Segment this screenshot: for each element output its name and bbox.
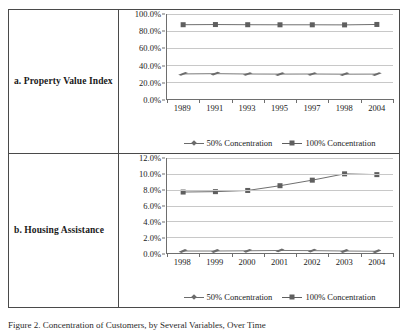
y-tick-mark [162,158,165,159]
data-point-marker [278,183,283,188]
x-axis-labels-b: 1998199920002001200220032004 [166,256,393,272]
y-tick-mark [162,206,165,207]
data-point-marker [278,22,283,27]
x-tick-label: 1993 [239,104,256,113]
gridline [167,221,393,222]
y-tick-label: 0.0% [143,96,161,105]
plot-area-b [166,158,393,254]
x-tick-label: 1997 [303,104,320,113]
x-tick-label: 1995 [271,104,288,113]
plot-wrap-b: 0.0%2.0%4.0%6.0%8.0%10.0%12.0% 199819992… [121,158,395,272]
y-tick-mark [162,14,165,15]
legend-label: 100% Concentration [305,292,375,302]
legend-label: 50% Concentration [207,292,273,302]
y-tick-label: 100.0% [135,10,161,19]
legend-a: 50% Concentration100% Concentration [166,135,393,150]
legend-item: 100% Concentration [282,292,375,302]
legend-b: 50% Concentration100% Concentration [166,289,393,304]
legend-item: 50% Concentration [184,138,273,148]
chart-housing-assistance: 0.0%2.0%4.0%6.0%8.0%10.0%12.0% 199819992… [121,158,395,305]
legend-item: 50% Concentration [184,292,273,302]
y-tick-mark [162,31,165,32]
y-tick-mark [162,48,165,49]
plot-wrap-a: 0.0%20.0%40.0%60.0%80.0%100.0% 198919911… [121,14,395,118]
y-tick-mark [162,174,165,175]
y-tick-label: 12.0% [139,154,161,163]
y-tick-label: 2.0% [143,234,161,243]
legend-diamond-icon [184,292,204,301]
gridline [167,48,393,49]
y-tick-mark [162,222,165,223]
gridline [167,14,393,15]
x-tick-label: 2003 [336,258,353,267]
legend-item: 100% Concentration [282,138,375,148]
legend-label: 100% Concentration [305,138,375,148]
x-tick-label: 2002 [303,258,320,267]
data-point-marker [245,22,250,27]
x-tick-label: 1999 [206,258,223,267]
row-label-a: a. Property Value Index [14,76,113,88]
y-tick-mark [162,100,165,101]
y-tick-label: 6.0% [143,202,161,211]
y-tick-mark [162,238,165,239]
gridline [167,158,393,159]
gridline [167,237,393,238]
x-tick-label: 1991 [206,104,223,113]
legend-square-icon [282,292,302,301]
row-label-cell-b: b. Housing Assistance [9,154,119,307]
gridline [167,31,393,32]
figure-caption: Figure 2. Concentration of Customers, by… [8,320,402,330]
gridline [167,65,393,66]
plot-area-a [166,14,393,100]
y-tick-label: 8.0% [143,186,161,195]
y-tick-mark [162,82,165,83]
y-tick-label: 10.0% [139,170,161,179]
data-point-marker [310,22,315,27]
data-point-marker [374,22,379,27]
x-axis-labels-a: 1989199119931995199719982004 [166,102,393,118]
legend-square-icon [282,138,302,147]
y-tick-label: 4.0% [143,218,161,227]
y-tick-mark [162,65,165,66]
figure-row-a: a. Property Value Index 0.0%20.0%40.0%60… [9,10,399,153]
x-tick-label: 2001 [271,258,288,267]
y-tick-label: 20.0% [139,79,161,88]
x-tick-label: 1998 [336,104,353,113]
gridline [167,174,393,175]
x-tick-label: 1998 [174,258,191,267]
y-axis-labels-b: 0.0%2.0%4.0%6.0%8.0%10.0%12.0% [121,158,165,254]
y-tick-label: 80.0% [139,27,161,36]
data-point-marker [310,178,315,183]
chart-cell-a: 0.0%20.0%40.0%60.0%80.0%100.0% 198919911… [119,10,399,153]
y-tick-mark [162,254,165,255]
x-tick-mark [393,253,394,257]
x-tick-label: 1989 [174,104,191,113]
data-point-marker [213,22,218,27]
legend-label: 50% Concentration [207,138,273,148]
x-tick-label: 2004 [368,104,385,113]
y-axis-labels-a: 0.0%20.0%40.0%60.0%80.0%100.0% [121,14,165,100]
x-tick-mark [393,99,394,103]
gridline [167,206,393,207]
data-point-marker [342,22,347,27]
chart-cell-b: 0.0%2.0%4.0%6.0%8.0%10.0%12.0% 199819992… [119,154,399,307]
y-tick-label: 0.0% [143,250,161,259]
x-tick-label: 2000 [239,258,256,267]
y-tick-label: 40.0% [139,61,161,70]
row-label-cell-a: a. Property Value Index [9,10,119,153]
legend-diamond-icon [184,138,204,147]
gridline [167,190,393,191]
x-tick-label: 2004 [368,258,385,267]
series-layer-a [167,14,393,99]
data-point-marker [181,22,186,27]
figure-row-b: b. Housing Assistance 0.0%2.0%4.0%6.0%8.… [9,153,399,307]
gridline [167,82,393,83]
chart-property-value-index: 0.0%20.0%40.0%60.0%80.0%100.0% 198919911… [121,14,395,151]
row-label-b: b. Housing Assistance [14,225,104,237]
figure-table: a. Property Value Index 0.0%20.0%40.0%60… [8,9,400,308]
y-tick-mark [162,190,165,191]
y-tick-label: 60.0% [139,44,161,53]
